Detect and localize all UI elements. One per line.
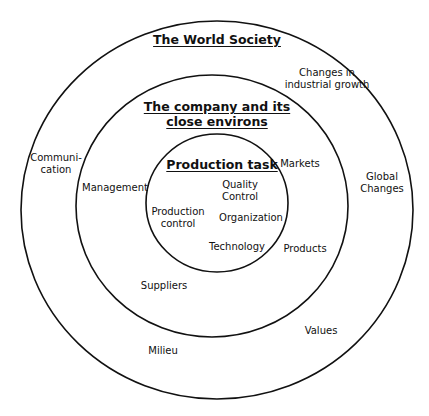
label-suppliers: Suppliers [141, 280, 187, 292]
middle-circle-title: The company and its close environs [144, 99, 290, 129]
label-milieu: Milieu [148, 345, 177, 357]
label-production-control: Production control [151, 206, 204, 230]
inner-circle-title: Production task [166, 157, 277, 172]
label-products: Products [283, 243, 326, 255]
label-values: Values [305, 325, 338, 337]
label-changes-in-industrial-growth: Changes in industrial growth [285, 67, 370, 91]
label-organization: Organization [219, 212, 283, 224]
concentric-circles-diagram [0, 0, 429, 416]
label-management: Management [82, 182, 148, 194]
label-technology: Technology [209, 241, 265, 253]
label-global-changes: Global Changes [360, 171, 404, 195]
label-communication: Communi- cation [30, 152, 82, 176]
label-markets: Markets [280, 158, 320, 170]
outer-circle-title: The World Society [153, 32, 281, 47]
label-quality-control: Quality Control [222, 179, 258, 203]
